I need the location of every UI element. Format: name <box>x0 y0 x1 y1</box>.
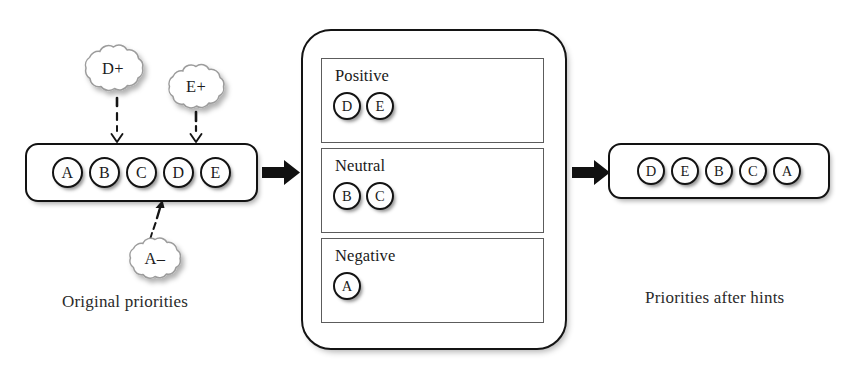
original-priority-list[interactable]: A B C D E <box>25 143 258 202</box>
bin-negative-label: Negative <box>335 246 395 266</box>
priorities-after-hints-caption: Priorities after hints <box>645 288 784 308</box>
priority-token[interactable]: B <box>89 157 120 188</box>
original-priority-list-row: A B C D E <box>27 145 256 200</box>
bin-neutral-label: Neutral <box>335 156 385 176</box>
hint-cloud-e-plus: E+ <box>162 58 230 120</box>
priority-token[interactable]: C <box>126 157 157 188</box>
hint-cloud-a-minus: A– <box>124 232 186 290</box>
original-priorities-caption: Original priorities <box>62 292 188 312</box>
priority-token[interactable]: D <box>333 92 361 120</box>
priority-token[interactable]: A <box>333 272 361 300</box>
priority-token[interactable]: C <box>739 157 767 185</box>
hint-cloud-d-plus: D+ <box>78 38 148 104</box>
priority-token[interactable]: A <box>52 157 83 188</box>
reordered-priority-list-row: D E B C A <box>610 145 828 197</box>
bin-neutral-tokens: B C <box>333 182 394 210</box>
bin-neutral[interactable]: Neutral B C <box>321 148 544 233</box>
priority-token[interactable]: D <box>637 157 665 185</box>
hint-connector-d-plus <box>100 98 140 148</box>
flow-arrow-right-1 <box>262 158 304 188</box>
priority-token[interactable]: E <box>366 92 394 120</box>
priority-token[interactable]: B <box>333 182 361 210</box>
priority-token[interactable]: A <box>773 157 801 185</box>
reordered-priority-list[interactable]: D E B C A <box>608 143 830 199</box>
priority-token[interactable]: C <box>366 182 394 210</box>
bin-positive-label: Positive <box>335 66 389 86</box>
diagram-canvas: D+ E+ A B C D E <box>0 0 857 372</box>
bin-negative-tokens: A <box>333 272 361 300</box>
priority-token[interactable]: D <box>163 157 194 188</box>
hint-sorter-container: Positive D E Neutral B C Negative A <box>301 29 567 350</box>
bin-negative[interactable]: Negative A <box>321 238 544 323</box>
priority-token[interactable]: E <box>671 157 699 185</box>
priority-token[interactable]: B <box>705 157 733 185</box>
bin-positive[interactable]: Positive D E <box>321 58 544 143</box>
bin-positive-tokens: D E <box>333 92 394 120</box>
priority-token[interactable]: E <box>200 157 231 188</box>
